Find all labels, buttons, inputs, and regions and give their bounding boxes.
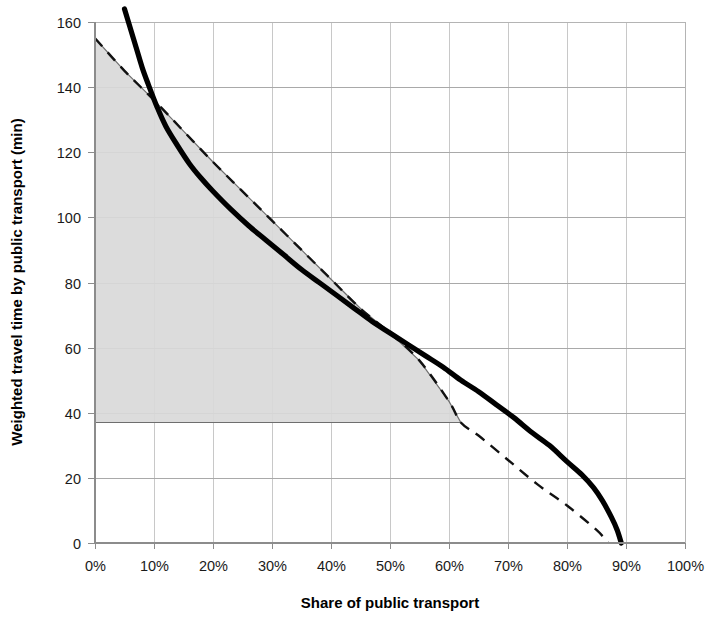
x-tick-label: 50% [376,558,405,574]
x-axis-title: Share of public transport [301,594,479,611]
chart-container: 0%10%20%30%40%50%60%70%80%90%100% 020406… [0,0,716,628]
x-tick-label: 100% [667,558,704,574]
x-tick-label: 0% [85,558,106,574]
x-tick-label: 70% [494,558,523,574]
y-axis-ticks [88,23,95,544]
x-tick-label: 20% [199,558,228,574]
y-tick-label: 140 [57,80,81,96]
x-tick-label: 80% [553,558,582,574]
y-axis-title: Weighted travel time by public transport… [8,118,25,445]
y-tick-label: 0 [73,536,81,552]
y-axis-tick-labels: 020406080100120140160 [57,15,81,552]
x-tick-label: 60% [435,558,464,574]
x-axis-ticks [96,543,686,549]
x-tick-label: 30% [258,558,287,574]
chart-canvas: 0%10%20%30%40%50%60%70%80%90%100% 020406… [0,0,716,628]
y-tick-label: 80 [65,276,81,292]
y-tick-label: 20 [65,471,81,487]
x-tick-label: 90% [612,558,641,574]
y-tick-label: 100 [57,210,81,226]
y-tick-label: 60 [65,341,81,357]
y-tick-label: 160 [57,15,81,31]
y-tick-label: 40 [65,406,81,422]
y-tick-label: 120 [57,145,81,161]
x-tick-label: 40% [317,558,346,574]
x-axis-tick-labels: 0%10%20%30%40%50%60%70%80%90%100% [85,558,704,574]
x-tick-label: 10% [140,558,169,574]
